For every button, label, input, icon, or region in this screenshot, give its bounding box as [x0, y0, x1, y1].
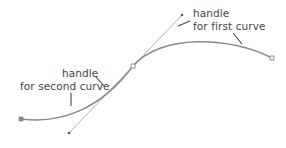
first-curve-handle-point: [181, 14, 184, 17]
second-curve-label: for second curve: [20, 80, 110, 92]
end-anchor-point: [270, 56, 274, 60]
start-anchor-point: [19, 117, 23, 121]
bezier-diagram: handle for first curve handle for second…: [0, 0, 286, 148]
second-handle-label: handle: [62, 67, 98, 79]
first-curve-leader: [233, 33, 242, 44]
middle-anchor-point: [131, 64, 135, 68]
first-handle-label: handle: [193, 7, 229, 19]
second-curve-handle-point: [68, 132, 71, 135]
first-handle-leader: [178, 21, 190, 26]
first-curve-label: for first curve: [193, 20, 266, 32]
